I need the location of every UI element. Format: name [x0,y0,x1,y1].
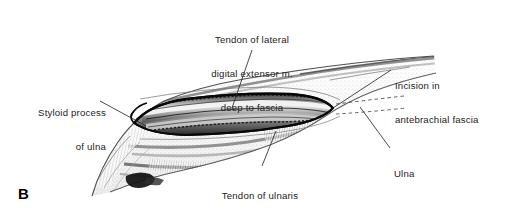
label-ulna-line-1: Ulna [394,168,454,179]
label-lateral-extensor-line-1: Tendon of lateral [180,34,324,45]
label-ulnaris-lateralis-line-1: Tendon of ulnaris [188,190,332,201]
leader-styloid [100,101,146,126]
label-lateral-extensor-line-2: digital extensor m. [180,68,324,79]
label-styloid-line-2: of ulna [14,141,106,152]
label-styloid-line-1: Styloid process [14,107,106,118]
panel-letter-b: B [18,186,29,202]
label-ulna: Ulna [394,145,454,202]
label-incision-antebrachial-fascia: Incision in antebrachial fascia [395,57,505,148]
label-styloid-process-of-ulna: Styloid process of ulna [14,84,106,175]
anatomical-figure-panel: Styloid process of ulna Tendon of latera… [0,0,506,215]
label-tendon-ulnaris-lateralis: Tendon of ulnaris lateralis m. deep to f… [188,167,332,215]
label-incision-line-1: Incision in [395,80,505,91]
label-tendon-lateral-digital-extensor: Tendon of lateral digital extensor m. de… [180,11,324,136]
leader-ulna [360,107,390,148]
label-lateral-extensor-line-3: deep to fascia [180,102,324,113]
label-incision-line-2: antebrachial fascia [395,114,505,125]
